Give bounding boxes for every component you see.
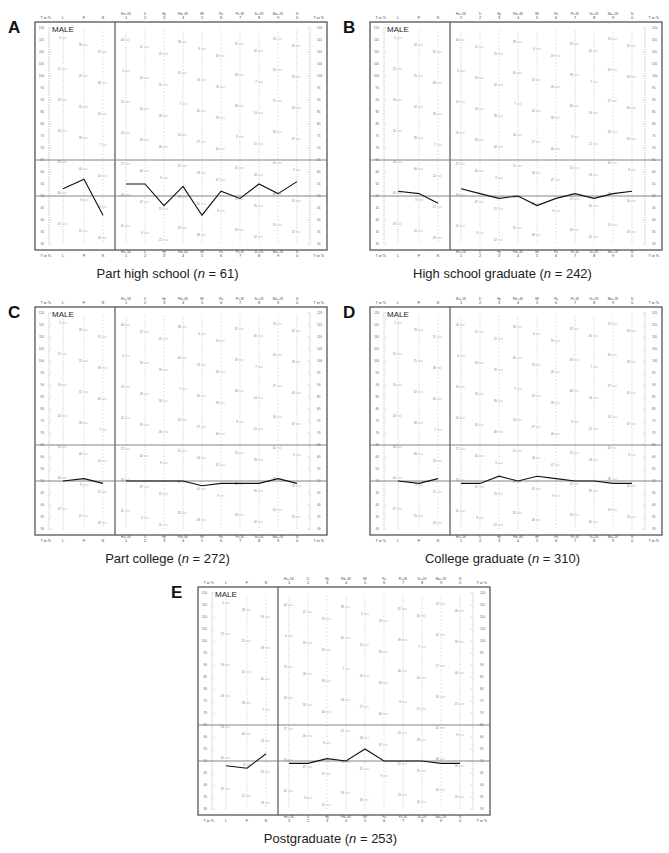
raw-score-label: 26 bbox=[627, 329, 631, 333]
raw-score-label: 26 bbox=[379, 650, 383, 654]
y-tick-label: 35 bbox=[317, 515, 321, 519]
raw-score-label: 27 bbox=[121, 447, 125, 451]
y-tick-label: 80 bbox=[480, 687, 484, 691]
raw-score-label: 40 bbox=[455, 671, 459, 675]
raw-score-label: 42 bbox=[417, 800, 421, 804]
raw-score-label: 41 bbox=[121, 224, 125, 228]
raw-score-label: 20 bbox=[436, 633, 440, 637]
clinical-scale-number: 2 bbox=[479, 253, 482, 258]
y-tick-label: 60 bbox=[317, 455, 321, 459]
raw-score-label: 41 bbox=[608, 161, 612, 165]
raw-score-label: 20 bbox=[456, 416, 460, 420]
raw-score-label: 33 bbox=[292, 360, 296, 364]
validity-scale-label: K bbox=[102, 538, 105, 543]
validity-scale-label: K bbox=[265, 580, 268, 585]
raw-score-label: 40 bbox=[627, 106, 631, 110]
y-tick-label: 105 bbox=[652, 347, 658, 351]
y-tick-label: 45 bbox=[317, 206, 321, 210]
y-tick-label: 90 bbox=[40, 98, 44, 102]
y-tick-label: 85 bbox=[652, 395, 656, 399]
raw-score-label: 35 bbox=[417, 769, 421, 773]
validity-scale-label: L bbox=[62, 538, 65, 543]
y-tick-label: 70 bbox=[317, 146, 321, 150]
raw-score-label: 13 bbox=[360, 643, 364, 647]
raw-score-label: 39 bbox=[494, 114, 498, 118]
y-tick-label: 70 bbox=[317, 431, 321, 435]
raw-score-label: 32 bbox=[79, 390, 83, 394]
scale-labels-top: T or TcLFKHs+.5K1D2Hy3Pd+.4K4Mf5Pa6Pt+1K… bbox=[376, 297, 660, 305]
clinical-scale-number: 0 bbox=[631, 253, 634, 258]
y-tick-label: 90 bbox=[375, 383, 379, 387]
raw-score-label: 40 bbox=[140, 454, 144, 458]
scale-labels-top: T or TcLFKHs+.5K1D2Hy3Pd+.4K4Mf5Pa6Pt+1K… bbox=[41, 297, 325, 305]
raw-score-label: 38 bbox=[433, 366, 437, 370]
y-tick-label: 35 bbox=[480, 795, 484, 799]
raw-score-label: 32 bbox=[570, 42, 574, 46]
raw-score-label: 33 bbox=[475, 423, 479, 427]
y-tick-label: 70 bbox=[652, 146, 656, 150]
raw-score-label: 39 bbox=[570, 358, 574, 362]
raw-score-label: 40 bbox=[292, 391, 296, 395]
raw-score-label: 39 bbox=[322, 679, 326, 683]
raw-score-label: 23 bbox=[627, 515, 631, 519]
raw-score-label: 28 bbox=[254, 458, 258, 462]
raw-score-label: 25 bbox=[414, 74, 418, 78]
raw-score-label: 14 bbox=[433, 459, 437, 463]
y-tick-label: 120 bbox=[652, 26, 658, 30]
y-tick-label: 110 bbox=[652, 50, 657, 54]
raw-score-label: 40 bbox=[140, 169, 144, 173]
raw-score-label: 28 bbox=[98, 236, 102, 240]
raw-score-label: 13 bbox=[456, 385, 460, 389]
y-tick-label: 75 bbox=[375, 134, 379, 138]
y-tick-label: 95 bbox=[317, 371, 321, 375]
y-tick-label: 105 bbox=[317, 347, 323, 351]
y-tick-label: 105 bbox=[317, 62, 323, 66]
raw-score-label: 40 bbox=[221, 756, 225, 760]
y-tick-label: 110 bbox=[480, 615, 485, 619]
raw-score-label: 32 bbox=[235, 327, 239, 331]
raw-score-label: 35 bbox=[513, 511, 517, 515]
scale-labels-bottom: T or TcLFKHs+.5K1D2Hy3Pd+.4K4Mf5Pa6Pt+1K… bbox=[41, 250, 325, 258]
clinical-scale-number: 0 bbox=[296, 538, 299, 543]
y-tick-label: 55 bbox=[317, 467, 321, 471]
raw-score-label: 20 bbox=[456, 131, 460, 135]
raw-score-label: 13 bbox=[608, 37, 612, 41]
raw-score-label: 47 bbox=[627, 422, 631, 426]
clinical-scale-number: 0 bbox=[459, 580, 462, 585]
clinical-scale-number: 2 bbox=[479, 538, 482, 543]
raw-score-label: 27 bbox=[360, 705, 364, 709]
raw-score-label: 40 bbox=[303, 734, 307, 738]
validity-scale-label: K bbox=[437, 253, 440, 258]
validity-scale-label: K bbox=[437, 300, 440, 305]
raw-score-label: 21 bbox=[589, 427, 593, 431]
raw-score-label: 46 bbox=[159, 430, 163, 434]
y-tick-label: 75 bbox=[652, 419, 656, 423]
raw-score-label: 14 bbox=[261, 739, 265, 743]
raw-score-label: 14 bbox=[178, 418, 182, 422]
y-tick-label: 75 bbox=[203, 699, 207, 703]
y-tick-label: 30 bbox=[317, 527, 321, 531]
raw-score-label: 20 bbox=[121, 131, 125, 135]
sex-label: MALE bbox=[215, 590, 237, 599]
raw-score-label: 45 bbox=[178, 71, 182, 75]
y-tick-label: 85 bbox=[40, 395, 44, 399]
raw-score-label: 13 bbox=[197, 78, 201, 82]
validity-scale-label: K bbox=[102, 300, 105, 305]
y-tick-label: 75 bbox=[375, 419, 379, 423]
raw-score-label: 39 bbox=[79, 421, 83, 425]
raw-score-label: 26 bbox=[551, 85, 555, 89]
caption-n: n bbox=[182, 551, 189, 566]
y-tick-label: 120 bbox=[202, 591, 208, 595]
clinical-scale-number: 2 bbox=[307, 580, 310, 585]
y-tick-label: 55 bbox=[480, 747, 484, 751]
y-tick-label: 95 bbox=[203, 651, 207, 655]
raw-score-label: 22 bbox=[235, 482, 239, 486]
y-tick-label: 120 bbox=[374, 26, 380, 30]
raw-score-label: 35 bbox=[513, 226, 517, 230]
y-tick-label: 40 bbox=[317, 218, 321, 222]
raw-score-label: 14 bbox=[513, 133, 517, 137]
y-tick-label: 30 bbox=[652, 242, 656, 246]
caption-n: n bbox=[198, 266, 205, 281]
raw-score-label: 27 bbox=[197, 425, 201, 429]
y-tick-label: 40 bbox=[375, 218, 379, 222]
